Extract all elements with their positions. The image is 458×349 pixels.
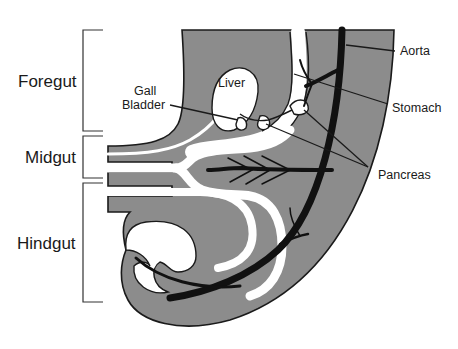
stomach-label: Stomach <box>392 101 441 115</box>
liver-label: Liver <box>218 76 245 90</box>
pancreas-label: Pancreas <box>378 168 431 182</box>
midgut-bracket <box>83 136 103 178</box>
hindgut-label: Hindgut <box>17 234 76 253</box>
gall-bladder-label-1: Gall <box>134 84 156 98</box>
aorta-label: Aorta <box>400 44 430 58</box>
gall-bladder-label-2: Bladder <box>122 98 165 112</box>
midgut-label: Midgut <box>25 148 76 167</box>
hindgut-bracket <box>83 183 103 302</box>
foregut-label: Foregut <box>18 72 77 91</box>
foregut-bracket <box>83 30 103 131</box>
ventral-pancreas-bud <box>258 116 270 130</box>
gut-tube-diagram: Foregut Midgut Hindgut Gall Bladder Live… <box>0 0 458 349</box>
